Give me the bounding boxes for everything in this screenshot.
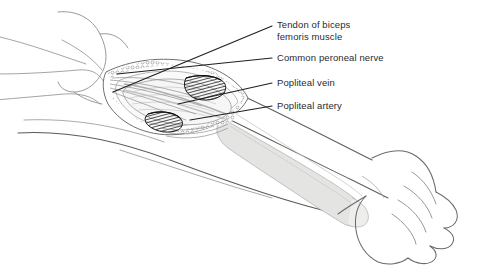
- label-vein-line1: Popliteal vein: [277, 77, 335, 88]
- toe-lines: [392, 172, 436, 244]
- label-artery-line1: Popliteal artery: [277, 100, 342, 111]
- label-popliteal-artery: Popliteal artery: [277, 100, 342, 112]
- label-common-peroneal-nerve: Common peroneal nerve: [277, 52, 384, 64]
- anatomy-figure-page: Tendon of biceps femoris muscle Common p…: [0, 0, 479, 277]
- label-tendon-of-biceps-femoris-muscle: Tendon of biceps femoris muscle: [277, 19, 350, 42]
- upper-hatched-muscle: [184, 76, 225, 101]
- label-tendon-line1: Tendon of biceps: [277, 19, 350, 30]
- label-popliteal-vein: Popliteal vein: [277, 77, 335, 89]
- leg-dissection-illustration: [0, 0, 479, 277]
- label-tendon-line2: femoris muscle: [277, 31, 350, 43]
- thigh-region: [0, 36, 104, 104]
- label-nerve-line1: Common peroneal nerve: [277, 52, 384, 63]
- tibia-bone: [217, 120, 369, 227]
